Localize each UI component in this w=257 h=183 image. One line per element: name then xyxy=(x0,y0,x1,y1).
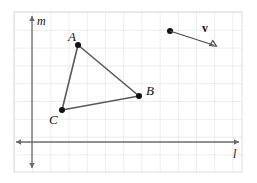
axis-label-m: m xyxy=(37,15,46,27)
coordinate-plane-figure: m l A B C v xyxy=(0,0,257,183)
point-label-b: B xyxy=(146,84,154,97)
vector-label-v: v xyxy=(202,22,208,34)
point-label-a: A xyxy=(68,30,76,43)
point-label-c: C xyxy=(49,113,58,126)
vertex-point-b xyxy=(136,93,142,99)
vertex-point-c xyxy=(59,107,65,113)
grid-lines xyxy=(14,12,242,172)
axis-label-l: l xyxy=(233,148,236,160)
